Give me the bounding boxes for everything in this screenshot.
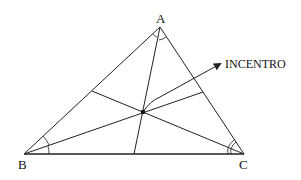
- angle-arc-a2: [159, 37, 166, 40]
- vertex-label-a: A: [156, 11, 166, 26]
- triangle: [24, 27, 244, 154]
- bisector-a: [134, 27, 160, 154]
- side-ab: [24, 27, 160, 154]
- incenter-pointer-arrow: [143, 64, 220, 112]
- angle-arc-b1: [43, 136, 49, 145]
- angle-arc-b2: [48, 146, 49, 154]
- bisector-b: [24, 92, 203, 154]
- angle-arc-c1: [228, 140, 234, 148]
- angle-marks: [43, 34, 236, 154]
- vertex-label-b: B: [18, 157, 27, 172]
- incenter-label: INCENTRO: [225, 57, 286, 71]
- angle-arc-a1: [153, 34, 157, 37]
- incenter-diagram: A B C INCENTRO: [0, 0, 301, 180]
- angle-arc-c3: [231, 142, 236, 149]
- vertex-label-c: C: [239, 157, 248, 172]
- angle-bisectors: [24, 27, 244, 154]
